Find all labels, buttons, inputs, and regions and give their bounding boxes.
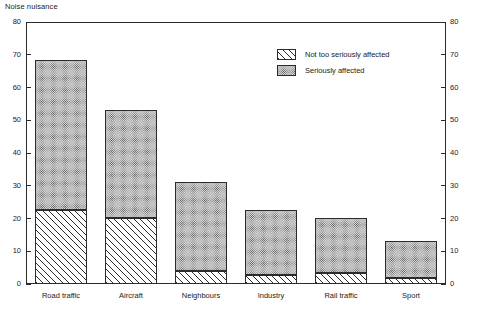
chart-title: Noise nuisance [5, 2, 58, 11]
y-tick-mark [26, 87, 31, 88]
x-axis-label-sport: Sport [376, 291, 446, 300]
bar-segment-not-too-seriously-affected [35, 210, 87, 284]
y-tick-mark [26, 218, 31, 219]
x-axis-label-neighbours: Neighbours [166, 291, 236, 300]
y-tick-mark [441, 153, 446, 154]
bar-neighbours [175, 182, 227, 284]
y-tick-label: 30 [0, 182, 21, 190]
y-tick-mark [26, 251, 31, 252]
bar-segment-seriously-affected [245, 210, 297, 275]
y-tick-label: 0 [450, 280, 475, 288]
y-tick-mark [26, 185, 31, 186]
y-tick-label: 70 [450, 51, 475, 59]
bar-sport [385, 241, 437, 284]
bar-segment-seriously-affected [385, 241, 437, 278]
y-tick-mark [441, 218, 446, 219]
x-axis-label-rail-traffic: Rail traffic [306, 291, 376, 300]
y-tick-mark [441, 54, 446, 55]
bar-segment-not-too-seriously-affected [245, 275, 297, 284]
y-tick-label: 60 [450, 84, 475, 92]
legend-item-not-too-seriously-affected: Not too seriously affected [277, 48, 390, 61]
y-tick-label: 50 [450, 116, 475, 124]
y-tick-label: 50 [0, 116, 21, 124]
y-tick-label: 40 [450, 149, 475, 157]
bar-segment-seriously-affected [175, 182, 227, 271]
y-tick-label: 0 [0, 280, 21, 288]
bar-segment-seriously-affected [35, 60, 87, 211]
y-tick-label: 10 [450, 247, 475, 255]
y-tick-mark [441, 87, 446, 88]
x-axis-label-aircraft: Aircraft [96, 291, 166, 300]
legend-label: Seriously affected [305, 66, 364, 75]
legend: Not too seriously affected Seriously aff… [277, 48, 390, 80]
y-tick-mark [26, 120, 31, 121]
legend-item-seriously-affected: Seriously affected [277, 64, 390, 77]
y-tick-mark [441, 284, 446, 285]
bar-road-traffic [35, 60, 87, 284]
y-tick-mark [26, 153, 31, 154]
y-tick-mark [441, 251, 446, 252]
y-tick-label: 80 [0, 18, 21, 26]
legend-label: Not too seriously affected [305, 50, 390, 59]
bar-segment-not-too-seriously-affected [105, 218, 157, 284]
y-tick-mark [441, 185, 446, 186]
y-tick-mark [26, 22, 31, 23]
y-tick-label: 40 [0, 149, 21, 157]
y-tick-label: 20 [0, 215, 21, 223]
bar-segment-not-too-seriously-affected [315, 273, 367, 284]
bar-industry [245, 210, 297, 284]
y-tick-mark [26, 284, 31, 285]
bar-aircraft [105, 110, 157, 284]
x-axis-label-road-traffic: Road traffic [26, 291, 96, 300]
y-tick-label: 10 [0, 247, 21, 255]
y-tick-mark [441, 22, 446, 23]
bar-rail-traffic [315, 218, 367, 284]
bar-segment-seriously-affected [105, 110, 157, 218]
y-tick-label: 60 [0, 84, 21, 92]
x-axis-label-industry: Industry [236, 291, 306, 300]
y-tick-label: 80 [450, 18, 475, 26]
legend-swatch-hatch-icon [277, 49, 296, 60]
y-tick-mark [441, 120, 446, 121]
y-tick-label: 30 [450, 182, 475, 190]
bar-segment-not-too-seriously-affected [385, 278, 437, 284]
y-tick-mark [26, 54, 31, 55]
noise-nuisance-chart: Noise nuisance 01020304050607080 0102030… [0, 0, 477, 315]
legend-swatch-dots-icon [277, 65, 296, 76]
y-tick-label: 20 [450, 215, 475, 223]
bar-segment-not-too-seriously-affected [175, 271, 227, 284]
bar-segment-seriously-affected [315, 218, 367, 273]
y-tick-label: 70 [0, 51, 21, 59]
